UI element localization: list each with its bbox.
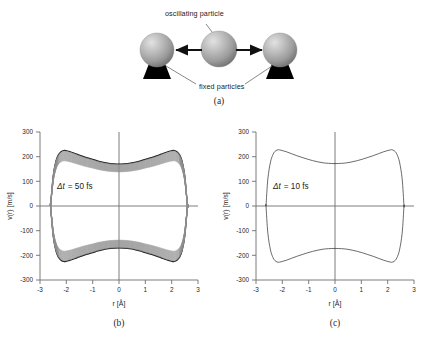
ytick-label: 0 (245, 202, 249, 209)
chart-c-annotation-value: = 10 fs (284, 182, 309, 191)
leader-line-fixed-left (166, 66, 196, 84)
ytick-label: 100 (22, 178, 33, 185)
xtick-label: 1 (144, 286, 148, 293)
xtick-label: 1 (360, 286, 364, 293)
xtick-label: 2 (386, 286, 390, 293)
ytick-label: 300 (22, 128, 33, 135)
chart-c-svg: 300 200 100 0 -100 -200 -300 -3 -2 -1 0 … (216, 122, 438, 342)
panel-c-chart: 300 200 100 0 -100 -200 -300 -3 -2 -1 0 … (216, 122, 438, 342)
chart-b-annotation-symbol: Δt (56, 182, 65, 191)
xtick-label: 0 (333, 286, 337, 293)
xtick-label: 2 (170, 286, 174, 293)
ytick-label: 200 (238, 153, 249, 160)
chart-c-ylabel: v(r) [m/s] (222, 192, 230, 220)
xtick-label: 3 (196, 286, 200, 293)
ytick-label: -100 (20, 227, 33, 234)
label-fixed-particles: fixed particles (199, 82, 244, 91)
chart-b-annotation: Δt= 50 fs (56, 182, 93, 191)
ytick-label: 200 (22, 153, 33, 160)
chart-c-annotation: Δt= 10 fs (272, 182, 309, 191)
xtick-label: 0 (117, 286, 121, 293)
ytick-label: 300 (238, 128, 249, 135)
ytick-label: -200 (20, 252, 33, 259)
chart-c-annotation-symbol: Δt (272, 182, 281, 191)
ytick-label: -300 (236, 276, 249, 283)
chart-b-ytick-labels: 300 200 100 0 -100 -200 -300 (20, 128, 33, 283)
caption-a: (a) (195, 96, 243, 106)
ytick-label: -300 (20, 276, 33, 283)
xtick-label: -1 (306, 286, 312, 293)
ytick-label: -100 (236, 227, 249, 234)
label-oscillating-particle: oscillating particle (165, 9, 224, 18)
ytick-label: 100 (238, 178, 249, 185)
chart-c-axes (256, 132, 414, 280)
chart-b-xticks (40, 280, 198, 284)
caption-b: (b) (95, 318, 143, 328)
figure-root: oscillating particle fixed particles (a) (0, 0, 438, 342)
chart-c-xlabel: r [Å] (329, 299, 342, 308)
sphere-fixed-right (263, 33, 297, 67)
panel-b-chart: 300 200 100 0 -100 -200 -300 -3 -2 -1 0 … (0, 122, 222, 342)
xtick-label: -1 (90, 286, 96, 293)
chart-c-ytick-labels: 300 200 100 0 -100 -200 -300 (236, 128, 249, 283)
chart-b-yticks (36, 132, 40, 280)
chart-b-svg: 300 200 100 0 -100 -200 -300 -3 -2 -1 0 … (0, 122, 222, 342)
chart-c-xtick-labels: -3 -2 -1 0 1 2 3 (253, 286, 416, 293)
chart-b-ylabel: v(r) [m/s] (6, 192, 14, 220)
sphere-oscillating-center (201, 31, 237, 67)
caption-c: (c) (311, 318, 359, 328)
ytick-label: 0 (29, 202, 33, 209)
chart-b-annotation-value: = 50 fs (68, 182, 93, 191)
chart-c-xticks (256, 280, 414, 284)
xtick-label: -3 (37, 286, 43, 293)
xtick-label: -3 (253, 286, 259, 293)
chart-b-xtick-labels: -3 -2 -1 0 1 2 3 (37, 286, 200, 293)
xtick-label: -2 (63, 286, 69, 293)
sphere-fixed-left (140, 33, 174, 67)
xtick-label: 3 (412, 286, 416, 293)
chart-b-xlabel: r [Å] (113, 299, 126, 308)
xtick-label: -2 (279, 286, 285, 293)
chart-c-yticks (252, 132, 256, 280)
panel-a-schematic: oscillating particle fixed particles (a) (0, 0, 438, 118)
ytick-label: -200 (236, 252, 249, 259)
